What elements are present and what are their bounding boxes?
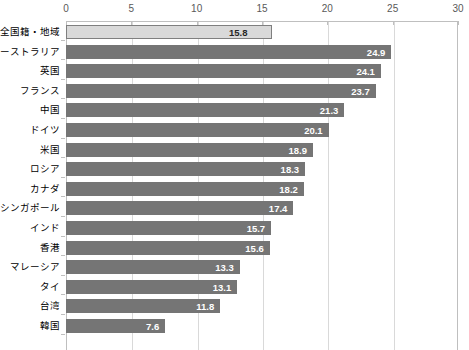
horizontal-bar-chart: 051015202530 全国籍・地域オーストラリア英国フランス中国ドイツ米国ロ… [0,0,469,350]
x-axis-tick-label: 25 [387,3,398,14]
x-axis-tick-mark [131,21,132,25]
x-axis-tick-mark [327,21,328,25]
bar-value-label: 24.9 [367,46,386,57]
x-axis-tick-mark [458,21,459,25]
x-axis-tick-label: 10 [191,3,202,14]
bar: 13.1 [66,280,237,294]
x-axis-tick-mark [393,21,394,25]
bar-value-label: 15.8 [229,27,248,38]
y-axis-category-label: 韓国 [40,320,60,332]
y-axis-tick-mark [61,157,65,158]
y-axis-tick-mark [61,40,65,41]
y-axis-tick-mark [61,138,65,139]
bar-value-label: 20.1 [304,125,323,136]
x-axis-tick-mark [262,21,263,25]
bar: 24.9 [66,45,391,59]
y-axis-category-label: ドイツ [30,124,60,136]
bar: 15.7 [66,221,271,235]
y-axis-tick-mark [61,177,65,178]
y-axis-category-label: マレーシア [10,261,60,273]
bar: 17.4 [66,201,293,215]
bar-value-label: 18.9 [288,144,307,155]
y-axis-category-label: 全国籍・地域 [0,26,60,38]
bar: 13.3 [66,260,240,274]
bar-value-label: 7.6 [146,321,159,332]
x-axis-tick-mark [197,21,198,25]
bar-value-label: 13.1 [213,281,232,292]
bars-layer: 15.824.924.123.721.320.118.918.318.217.4… [66,22,458,350]
bar: 21.3 [66,103,344,117]
y-axis-category-label: オーストラリア [0,46,60,58]
bar-value-label: 18.2 [279,183,298,194]
bar: 20.1 [66,123,329,137]
y-axis-tick-mark [61,118,65,119]
y-axis-category-label: 米国 [40,144,60,156]
y-axis-tick-mark [61,294,65,295]
y-axis-category-label: インド [30,222,60,234]
x-axis-tick-label: 30 [452,3,463,14]
y-axis-category-label: シンガポール [0,202,60,214]
y-axis-tick-mark [61,98,65,99]
bar-value-label: 15.6 [245,242,264,253]
y-axis-tick-mark [61,79,65,80]
bar-value-label: 11.8 [196,301,214,312]
y-axis-tick-mark [61,59,65,60]
bar-value-label: 24.1 [356,66,375,77]
x-axis-tick-label: 15 [256,3,267,14]
bar: 18.9 [66,143,313,157]
bar: 23.7 [66,84,376,98]
bar: 7.6 [66,319,165,333]
y-axis-category-label: 台湾 [40,300,60,312]
bar: 15.8 [66,25,272,39]
bar-value-label: 13.3 [215,262,234,273]
y-axis-tick-mark [61,236,65,237]
y-axis-tick-mark [61,275,65,276]
bar-value-label: 18.3 [281,164,300,175]
x-axis-tick-label: 5 [129,3,135,14]
y-axis-tick-mark [61,255,65,256]
y-axis-tick-mark [61,314,65,315]
y-axis-category-label: 香港 [40,242,60,254]
bar: 24.1 [66,64,381,78]
y-axis-category-label: タイ [40,281,60,293]
x-axis-tick-mark [66,21,67,25]
x-axis-tick-label: 0 [63,3,69,14]
y-axis-category-label: 英国 [40,65,60,77]
y-axis-category-label: ロシア [30,163,60,175]
bar: 15.6 [66,241,270,255]
bar: 11.8 [66,299,220,313]
bar-value-label: 15.7 [247,223,266,234]
y-axis-tick-mark [61,196,65,197]
bar-value-label: 17.4 [269,203,288,214]
y-axis-tick-mark [61,334,65,335]
bar-value-label: 21.3 [320,105,339,116]
y-axis-category-label: 中国 [40,104,60,116]
y-axis-category-labels: 全国籍・地域オーストラリア英国フランス中国ドイツ米国ロシアカナダシンガポールイン… [0,22,63,350]
x-axis-tick-labels: 051015202530 [66,0,458,22]
y-axis-category-label: カナダ [30,183,60,195]
bar: 18.2 [66,182,304,196]
y-axis-tick-mark [61,216,65,217]
bar-value-label: 23.7 [351,85,370,96]
x-axis-tick-label: 20 [322,3,333,14]
bar: 18.3 [66,162,305,176]
y-axis-category-label: フランス [20,85,60,97]
